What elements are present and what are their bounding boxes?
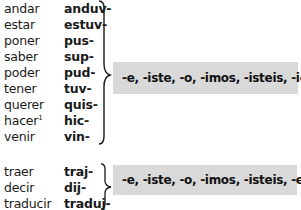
infinitive: tener bbox=[4, 81, 36, 96]
preterite-stem: pus- bbox=[64, 33, 94, 48]
preterite-stem: sup- bbox=[64, 49, 94, 64]
infinitive: estar bbox=[4, 17, 35, 32]
infinitive: andar bbox=[4, 1, 39, 16]
endings-text: -e, -iste, -o, -imos, -isteis, -eron bbox=[122, 173, 301, 187]
infinitive: querer bbox=[4, 97, 44, 112]
preterite-stem: dij- bbox=[64, 180, 86, 195]
infinitive-text: hacer bbox=[4, 113, 38, 128]
infinitive: traer bbox=[4, 164, 34, 179]
endings-box-eron: -e, -iste, -o, -imos, -isteis, -eron bbox=[113, 165, 297, 195]
infinitive: venir bbox=[4, 129, 35, 144]
footnote-marker: 1 bbox=[38, 114, 42, 122]
preterite-stem: hic- bbox=[64, 113, 89, 128]
endings-text: -e, -iste, -o, -imos, -isteis, -ieron bbox=[122, 71, 301, 85]
infinitive: saber bbox=[4, 49, 38, 64]
infinitive: hacer1 bbox=[4, 113, 43, 128]
right-brace-icon bbox=[98, 0, 114, 146]
preterite-stem: quis- bbox=[64, 97, 98, 112]
infinitive: poner bbox=[4, 33, 39, 48]
infinitive: poder bbox=[4, 65, 39, 80]
preterite-stem: pud- bbox=[64, 65, 95, 80]
preterite-stem: vin- bbox=[64, 129, 90, 144]
endings-box-ieron: -e, -iste, -o, -imos, -isteis, -ieron bbox=[113, 62, 298, 94]
infinitive: traducir bbox=[4, 196, 51, 210]
infinitive: decir bbox=[4, 180, 34, 195]
preterite-stem: traj- bbox=[64, 164, 93, 179]
preterite-stem: tuv- bbox=[64, 81, 91, 96]
